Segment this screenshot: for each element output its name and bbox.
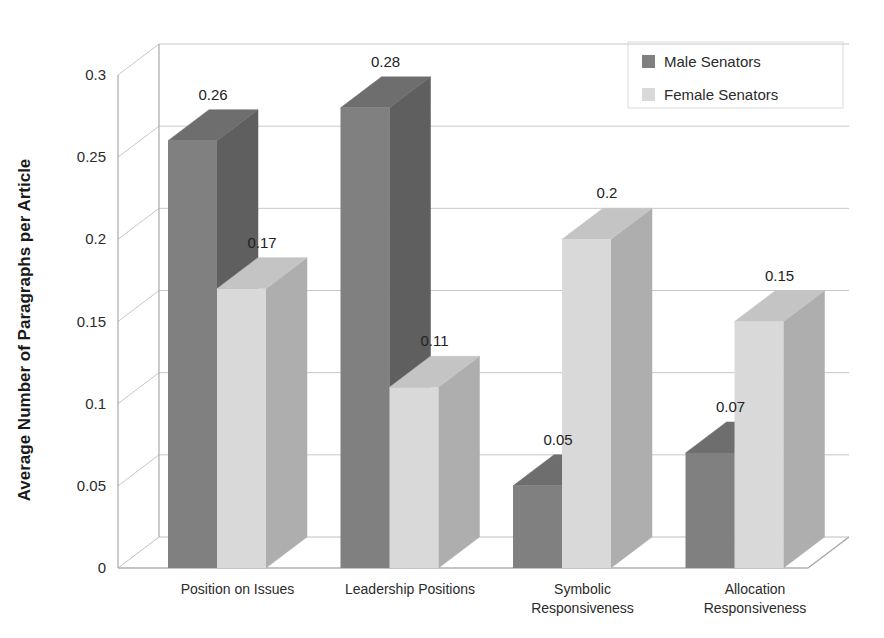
bar-value-label: 0.2: [597, 184, 618, 201]
bar-3d: [390, 356, 480, 568]
bar-front-face: [513, 486, 562, 568]
bar-side-face: [266, 258, 307, 568]
y-axis-tick-labels: 00.050.10.150.20.250.3: [77, 66, 106, 576]
bar-value-label: 0.26: [198, 86, 227, 103]
bar-front-face: [686, 453, 735, 568]
bar-front-face: [341, 108, 390, 568]
bar-front-face: [168, 141, 217, 568]
bar-3d: [562, 208, 652, 568]
y-tick-label: 0.15: [77, 313, 106, 330]
x-category-label: Responsiveness: [531, 600, 634, 616]
bar-side-face: [611, 208, 652, 568]
bar-front-face: [390, 387, 439, 568]
bar-3d: [217, 258, 307, 568]
y-tick-label: 0: [98, 559, 106, 576]
legend-item-label: Female Senators: [664, 86, 778, 103]
y-tick-label: 0.1: [85, 395, 106, 412]
bar-value-label: 0.07: [716, 398, 745, 415]
legend-swatch: [642, 88, 655, 101]
chart-container: Average Number of Paragraphs per Article…: [0, 0, 884, 638]
bar-front-face: [217, 289, 266, 568]
y-tick-label: 0.05: [77, 477, 106, 494]
bar-front-face: [562, 239, 611, 568]
x-category-label: Responsiveness: [704, 600, 807, 616]
bar-value-label: 0.11: [420, 332, 448, 349]
x-category-label: Symbolic: [554, 581, 611, 597]
y-tick-label: 0.3: [85, 66, 106, 83]
bar-value-label: 0.05: [543, 431, 572, 448]
legend[interactable]: Male SenatorsFemale Senators: [628, 42, 843, 108]
x-category-label: Position on Issues: [181, 581, 295, 597]
y-axis-title: Average Number of Paragraphs per Article: [15, 159, 34, 502]
x-axis-category-labels: Position on IssuesLeadership PositionsSy…: [181, 581, 807, 616]
bar-value-label: 0.17: [247, 234, 276, 251]
x-category-label: Leadership Positions: [345, 581, 475, 597]
bar-3d: [735, 291, 825, 569]
y-tick-label: 0.25: [77, 148, 106, 165]
bar-chart-3d: Average Number of Paragraphs per Article…: [0, 0, 884, 638]
bars-group: [168, 77, 825, 568]
bar-side-face: [784, 291, 825, 569]
legend-item-label: Male Senators: [664, 53, 761, 70]
legend-item[interactable]: Male Senators: [642, 53, 761, 70]
legend-swatch: [642, 55, 655, 68]
bar-value-label: 0.15: [765, 267, 794, 284]
legend-item[interactable]: Female Senators: [642, 86, 778, 103]
bar-value-label: 0.28: [371, 53, 400, 70]
y-tick-label: 0.2: [85, 230, 106, 247]
x-category-label: Allocation: [725, 581, 786, 597]
bar-side-face: [439, 356, 480, 568]
bar-front-face: [735, 322, 784, 569]
